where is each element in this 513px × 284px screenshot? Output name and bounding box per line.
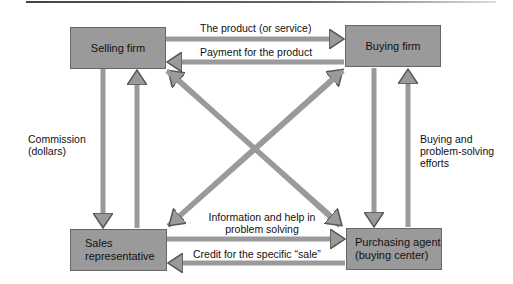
purchasing-label-2: (buying center) bbox=[355, 249, 441, 262]
label-payment: Payment for the product bbox=[200, 46, 312, 58]
commission-line-1: Commission bbox=[28, 133, 86, 145]
label-product: The product (or service) bbox=[200, 22, 311, 34]
info-line-1: Information and help in bbox=[200, 211, 324, 223]
node-purchasing-agent: Purchasing agent (buying center) bbox=[346, 228, 442, 270]
buying-firm-label: Buying firm bbox=[365, 40, 420, 52]
selling-firm-label: Selling firm bbox=[91, 42, 145, 54]
node-selling-firm: Selling firm bbox=[70, 27, 166, 69]
sales-rep-label-1: Sales bbox=[85, 237, 155, 250]
label-credit: Credit for the specific “sale” bbox=[193, 248, 321, 260]
info-line-2: problem solving bbox=[200, 223, 324, 235]
node-buying-firm: Buying firm bbox=[345, 25, 441, 67]
label-commission: Commission (dollars) bbox=[28, 133, 86, 157]
label-information: Information and help in problem solving bbox=[200, 211, 324, 235]
buying-line-3: efforts bbox=[420, 157, 494, 169]
buying-line-2: problem-solving bbox=[420, 145, 494, 157]
commission-line-2: (dollars) bbox=[28, 145, 86, 157]
sales-rep-label-2: representative bbox=[85, 250, 155, 263]
purchasing-label-1: Purchasing agent bbox=[355, 236, 441, 249]
node-sales-representative: Sales representative bbox=[70, 229, 167, 271]
label-buying-efforts: Buying and problem-solving efforts bbox=[420, 133, 494, 169]
buying-line-1: Buying and bbox=[420, 133, 494, 145]
